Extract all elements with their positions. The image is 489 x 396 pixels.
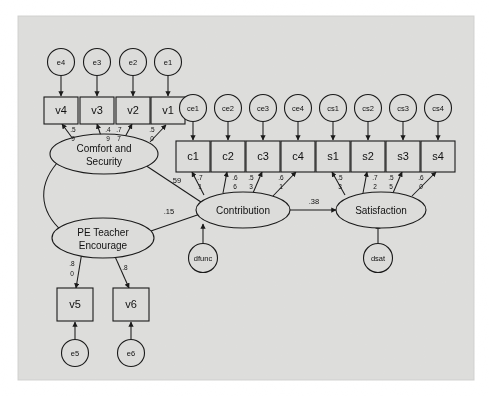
loading-digits-top: .8 <box>122 264 128 271</box>
loading-digits-top: .7 <box>116 126 122 133</box>
error-label: e6 <box>127 349 135 358</box>
error-node-e1: e1 <box>155 49 182 76</box>
error-label: e1 <box>164 58 172 67</box>
latent-label: Contribution <box>216 205 270 216</box>
loading-label-pe-v6: .8 <box>122 264 128 271</box>
indicator-label: v3 <box>91 104 103 116</box>
path-label-pe-to-contribution: .15 <box>164 207 174 216</box>
indicator-node-s3: s3 <box>386 141 420 172</box>
loading-digits-top: .5 <box>248 174 254 181</box>
loading-digits-top: .5 <box>388 174 394 181</box>
loading-digits-bottom: 0 <box>150 135 154 142</box>
loading-digits-top: .5 <box>337 174 343 181</box>
error-node-e2: e2 <box>120 49 147 76</box>
indicator-label: c3 <box>257 150 269 162</box>
loading-digits-bottom: 9 <box>106 135 110 142</box>
loading-digits-bottom: 9 <box>71 135 75 142</box>
indicator-node-s2: s2 <box>351 141 385 172</box>
latent-node-comfort-and-security: Comfort and Security <box>50 134 158 174</box>
indicator-node-c2: c2 <box>211 141 245 172</box>
loading-digits-top: .4 <box>105 126 111 133</box>
indicator-label: c1 <box>187 150 199 162</box>
loading-digits-top: .7 <box>197 174 203 181</box>
loading-digits-top: .7 <box>372 174 378 181</box>
error-node-ce1: ce1 <box>180 95 207 122</box>
indicator-label: v4 <box>55 104 67 116</box>
error-label: e2 <box>129 58 137 67</box>
error-label: cs2 <box>362 104 374 113</box>
indicator-node-s4: s4 <box>421 141 455 172</box>
error-node-ce4: ce4 <box>285 95 312 122</box>
error-label: cs3 <box>397 104 409 113</box>
latent-label: Satisfaction <box>355 205 407 216</box>
loading-digits-top: .5 <box>149 126 155 133</box>
latent-node-satisfaction: Satisfaction <box>336 192 426 228</box>
loading-digits-bottom: 7 <box>117 135 121 142</box>
indicator-label: v5 <box>69 298 81 310</box>
loading-digits-bottom: 1 <box>279 183 283 190</box>
indicator-label: s2 <box>362 150 374 162</box>
indicator-label: v6 <box>125 298 137 310</box>
error-node-e5: e5 <box>62 340 89 367</box>
path-label-contribution-to-satisfaction: .38 <box>309 197 319 206</box>
indicator-label: v1 <box>162 104 174 116</box>
error-node-cs2: cs2 <box>355 95 382 122</box>
indicator-label: v2 <box>127 104 139 116</box>
loading-digits-bottom: 6 <box>233 183 237 190</box>
latent-node-pe-teacher-encourage: PE Teacher Encourage <box>52 218 154 258</box>
indicator-node-v3: v3 <box>80 97 114 124</box>
loading-digits-bottom: 3 <box>249 183 253 190</box>
disturbance-node-dsat: dsat <box>364 244 393 273</box>
error-label: ce2 <box>222 104 234 113</box>
loading-digits-bottom: 2 <box>373 183 377 190</box>
error-node-e3: e3 <box>84 49 111 76</box>
disturbance-label: dsat <box>371 254 386 263</box>
loading-digits-bottom: 0 <box>419 183 423 190</box>
error-node-cs3: cs3 <box>390 95 417 122</box>
error-node-ce3: ce3 <box>250 95 277 122</box>
indicator-node-v6: v6 <box>113 288 149 321</box>
loading-digits-top: .6 <box>278 174 284 181</box>
error-label: e3 <box>93 58 101 67</box>
indicator-label: s4 <box>432 150 444 162</box>
loading-digits-top: .6 <box>232 174 238 181</box>
indicator-node-c3: c3 <box>246 141 280 172</box>
latent-label-line2: Security <box>86 156 122 167</box>
loading-digits-bottom: 0 <box>70 270 74 277</box>
disturbance-label: dfunc <box>194 254 213 263</box>
indicator-node-v2: v2 <box>116 97 150 124</box>
error-label: ce1 <box>187 104 199 113</box>
indicator-label: c2 <box>222 150 234 162</box>
indicator-node-c4: c4 <box>281 141 315 172</box>
loading-digits-bottom: 5 <box>389 183 393 190</box>
error-label: ce4 <box>292 104 304 113</box>
error-node-e4: e4 <box>48 49 75 76</box>
indicator-label: c4 <box>292 150 304 162</box>
error-node-cs1: cs1 <box>320 95 347 122</box>
loading-digits-top: .8 <box>69 260 75 267</box>
error-node-cs4: cs4 <box>425 95 452 122</box>
error-node-e6: e6 <box>118 340 145 367</box>
error-node-ce2: ce2 <box>215 95 242 122</box>
indicator-label: s3 <box>397 150 409 162</box>
indicator-node-v4: v4 <box>44 97 78 124</box>
latent-label-line1: PE Teacher <box>77 227 129 238</box>
indicator-label: s1 <box>327 150 339 162</box>
indicator-node-v5: v5 <box>57 288 93 321</box>
latent-node-contribution: Contribution <box>196 192 290 228</box>
loading-digits-top: .5 <box>70 126 76 133</box>
loading-digits-top: .6 <box>418 174 424 181</box>
error-label: e5 <box>71 349 79 358</box>
latent-label-line2: Encourage <box>79 240 128 251</box>
error-label: ce3 <box>257 104 269 113</box>
loading-digits-bottom: 1 <box>198 183 202 190</box>
loading-digits-bottom: 3 <box>338 183 342 190</box>
indicator-node-c1: c1 <box>176 141 210 172</box>
latent-label-line1: Comfort and <box>76 143 131 154</box>
sem-diagram-canvas: e4 e3 e2 e1 v4 v3 v2 v1 ce1 ce2 ce3 <box>0 0 489 396</box>
error-label: e4 <box>57 58 65 67</box>
disturbance-node-dfunc: dfunc <box>189 244 218 273</box>
indicator-node-s1: s1 <box>316 141 350 172</box>
error-label: cs4 <box>432 104 444 113</box>
error-label: cs1 <box>327 104 339 113</box>
